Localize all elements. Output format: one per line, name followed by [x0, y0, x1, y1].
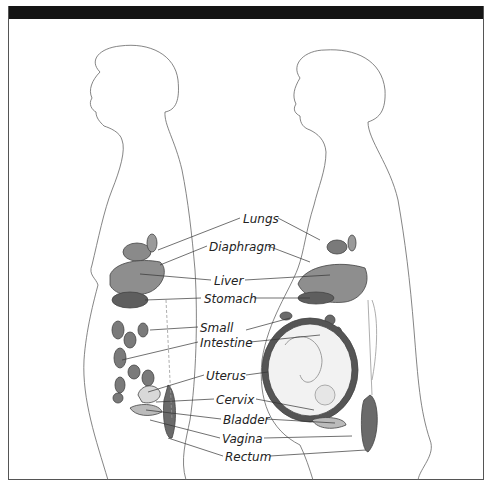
- label-small: Small: [200, 322, 233, 335]
- fetus-icon: [268, 324, 352, 416]
- label-bladder: Bladder: [223, 414, 269, 427]
- label-cervix: Cervix: [216, 394, 254, 407]
- label-rectum: Rectum: [225, 451, 271, 464]
- left-stomach-icon: [112, 292, 148, 308]
- label-diaphragm: Diaphragm: [209, 241, 276, 254]
- right-rectum-icon: [361, 395, 377, 452]
- left-uterus-icon: [138, 386, 160, 403]
- label-intestine: Intestine: [200, 337, 253, 350]
- left-rectum-icon: [163, 385, 175, 438]
- label-uterus: Uterus: [206, 370, 246, 383]
- label-liver: Liver: [214, 275, 243, 288]
- label-vagina: Vagina: [222, 433, 263, 446]
- label-lungs: Lungs: [243, 213, 279, 226]
- right-lung-icon: [327, 240, 347, 254]
- left-lung-icon: [123, 243, 151, 261]
- left-liver-icon: [110, 261, 164, 296]
- label-stomach: Stomach: [204, 293, 257, 306]
